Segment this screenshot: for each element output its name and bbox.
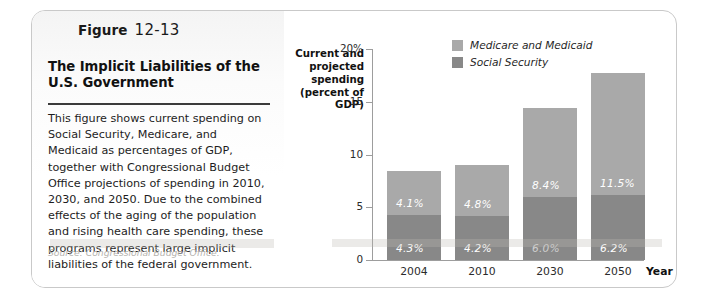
bar-segment-social-security[interactable]: 4.3% bbox=[387, 215, 441, 260]
y-tick-mark bbox=[366, 155, 373, 156]
x-tick-label: 2050 bbox=[591, 265, 645, 278]
bar-value-label: 4.2% bbox=[464, 242, 492, 254]
y-tick-mark bbox=[366, 207, 373, 208]
bar-segment-medicare-medicaid[interactable]: 8.4% bbox=[523, 108, 577, 197]
bar-segment-social-security[interactable]: 6.0% bbox=[523, 197, 577, 260]
bar-group[interactable]: 4.8%4.2% bbox=[455, 165, 509, 260]
x-tick-label: 2030 bbox=[523, 265, 577, 278]
x-axis-title: Year bbox=[646, 265, 673, 278]
y-tick-label: 5 bbox=[356, 200, 363, 212]
figure-label: Figure bbox=[78, 22, 128, 38]
x-tick-label: 2004 bbox=[387, 265, 441, 278]
bar-value-label: 11.5% bbox=[600, 177, 635, 189]
y-tick-label: 10 bbox=[350, 148, 363, 160]
y-tick-mark bbox=[366, 260, 373, 261]
bar-value-label: 8.4% bbox=[532, 179, 560, 191]
bar-group[interactable]: 4.1%4.3% bbox=[387, 171, 441, 260]
x-tick-label: 2010 bbox=[455, 265, 509, 278]
figure-title: The Implicit Liabilities of the U.S. Gov… bbox=[48, 59, 276, 92]
x-axis-line bbox=[372, 260, 644, 261]
plot-area: 05101520% 4.1%4.3%4.8%4.2%8.4%6.0%11.5%6… bbox=[372, 49, 644, 261]
figure-source-note: Source: Congressional Budget Office. bbox=[48, 247, 270, 258]
bar-segment-medicare-medicaid[interactable]: 4.8% bbox=[455, 165, 509, 216]
bar-value-label: 4.1% bbox=[396, 197, 424, 209]
bar-segment-social-security[interactable]: 6.2% bbox=[591, 195, 645, 260]
bar-group[interactable]: 8.4%6.0% bbox=[523, 108, 577, 260]
title-divider bbox=[48, 103, 270, 105]
figure-number-tab: Figure 12-13 bbox=[78, 21, 180, 45]
bar-segment-medicare-medicaid[interactable]: 11.5% bbox=[591, 73, 645, 194]
y-tick-mark bbox=[366, 102, 373, 103]
y-tick-label: 20% bbox=[340, 42, 363, 54]
y-tick-label: 15 bbox=[350, 95, 363, 107]
bar-value-label: 6.0% bbox=[532, 242, 560, 254]
bar-value-label: 6.2% bbox=[600, 242, 628, 254]
bar-value-label: 4.3% bbox=[396, 242, 424, 254]
figure-card: Figure 12-13 The Implicit Liabilities of… bbox=[31, 10, 677, 288]
bar-group[interactable]: 11.5%6.2% bbox=[591, 73, 645, 260]
chart: Current and projected spending (percent … bbox=[284, 11, 677, 287]
bar-segment-social-security[interactable]: 4.2% bbox=[455, 216, 509, 260]
bar-segment-medicare-medicaid[interactable]: 4.1% bbox=[387, 171, 441, 214]
bar-value-label: 4.8% bbox=[464, 198, 492, 210]
figure-number: 12-13 bbox=[135, 21, 180, 39]
y-tick-mark bbox=[366, 49, 373, 50]
y-tick-label: 0 bbox=[356, 253, 363, 265]
